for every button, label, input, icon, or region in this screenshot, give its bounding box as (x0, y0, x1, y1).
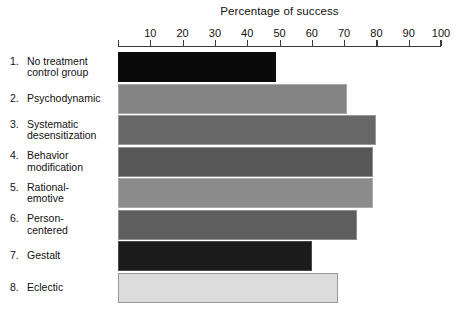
category-number: 2. (10, 93, 22, 105)
category-name: Gestalt (27, 250, 114, 262)
category-name-line1: Person- (27, 213, 114, 225)
category-number: 5. (10, 182, 22, 205)
bar (118, 273, 338, 303)
category-number: 3. (10, 119, 22, 142)
category-number: 1. (10, 56, 22, 79)
category-name: Rational-emotive (27, 182, 114, 205)
x-axis-tick-label: 90 (403, 27, 415, 39)
x-axis-tick-mark (150, 40, 151, 46)
bar (118, 147, 373, 177)
x-axis-tick-mark (344, 40, 345, 46)
x-axis-tick-mark (312, 40, 313, 46)
x-axis-tick-label: 60 (306, 27, 318, 39)
category-name: Psychodynamic (27, 93, 114, 105)
category-name-line1: Behavior (27, 150, 114, 162)
category-label: 4.Behaviormodification (10, 150, 114, 173)
x-axis-tick-label: 10 (144, 27, 156, 39)
category-name: Eclectic (27, 282, 114, 294)
x-axis-tick-label: 80 (370, 27, 382, 39)
x-axis-tick-mark (183, 40, 184, 46)
bar (118, 52, 276, 82)
x-axis-tick-label: 20 (176, 27, 188, 39)
category-name-line2: control group (27, 67, 114, 79)
category-name: Person-centered (27, 213, 114, 236)
bar (118, 115, 376, 145)
x-axis-tick-mark (215, 40, 216, 46)
category-name-line1: Eclectic (27, 282, 114, 294)
category-name-line1: Psychodynamic (27, 93, 114, 105)
category-name-line1: Gestalt (27, 250, 114, 262)
bar (118, 210, 357, 240)
category-label: 8.Eclectic (10, 282, 114, 294)
x-axis-tick-label: 40 (241, 27, 253, 39)
x-axis-tick-label: 30 (209, 27, 221, 39)
x-axis-tick-mark (376, 40, 377, 46)
x-axis-tick-mark (441, 40, 442, 46)
x-axis-left-cap (118, 40, 119, 46)
category-number: 8. (10, 282, 22, 294)
category-label: 1.No treatmentcontrol group (10, 56, 114, 79)
category-name-line2: desensitization (27, 130, 114, 142)
chart-title: Percentage of success (118, 5, 441, 17)
category-number: 7. (10, 250, 22, 262)
category-name: No treatmentcontrol group (27, 56, 114, 79)
category-name-line2: modification (27, 162, 114, 174)
category-name-line2: emotive (27, 193, 114, 205)
x-axis-tick-mark (247, 40, 248, 46)
category-number: 6. (10, 213, 22, 236)
x-axis-tick-label: 70 (338, 27, 350, 39)
category-label: 7.Gestalt (10, 250, 114, 262)
bar-chart: Percentage of success 102030405060708090… (0, 0, 467, 313)
category-name: Behaviormodification (27, 150, 114, 173)
category-name: Systematicdesensitization (27, 119, 114, 142)
category-label: 3.Systematicdesensitization (10, 119, 114, 142)
x-axis-tick-mark (280, 40, 281, 46)
x-axis-tick-mark (409, 40, 410, 46)
category-label: 2.Psychodynamic (10, 93, 114, 105)
bar (118, 178, 373, 208)
category-label: 6.Person-centered (10, 213, 114, 236)
category-number: 4. (10, 150, 22, 173)
category-name-line2: centered (27, 225, 114, 237)
bar (118, 84, 347, 114)
x-axis-tick-label: 50 (273, 27, 285, 39)
bar (118, 241, 312, 271)
x-axis-tick-label: 100 (432, 27, 450, 39)
category-label: 5.Rational-emotive (10, 182, 114, 205)
